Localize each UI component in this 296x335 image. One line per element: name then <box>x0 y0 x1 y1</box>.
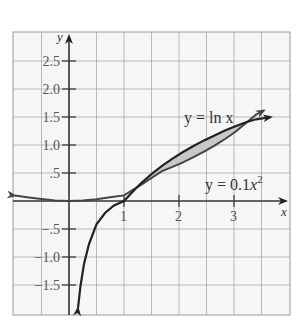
ln-curve-label: y = ln x <box>184 109 233 127</box>
quadratic-curve-label: y = 0.1x2 <box>205 173 263 194</box>
y-tick-label: 2.5 <box>43 54 61 69</box>
y-tick-label: −1.0 <box>35 250 60 265</box>
y-tick-label: 2.0 <box>43 82 61 97</box>
y-tick-label: 1.0 <box>43 138 61 153</box>
y-tick-label: −1.5 <box>35 278 60 293</box>
x-axis-label: x <box>280 204 287 219</box>
quadratic-label-prefix: y = 0.1 <box>205 176 250 194</box>
x-tick-label: 2 <box>175 209 182 224</box>
x-tick-label: 1 <box>120 209 127 224</box>
y-tick-label: −.5 <box>42 222 60 237</box>
quadratic-label-var: x <box>249 176 257 193</box>
y-tick-label: 1.5 <box>43 110 61 125</box>
y-axis-label: y <box>55 29 63 44</box>
x-tick-label: 3 <box>230 209 237 224</box>
y-tick-label: .5 <box>50 166 61 181</box>
chart: 1 2 3 2.5 2.0 1.5 1.0 .5 −.5 −1.0 −1.5 x… <box>0 0 296 335</box>
quadratic-label-exp: 2 <box>257 173 263 185</box>
